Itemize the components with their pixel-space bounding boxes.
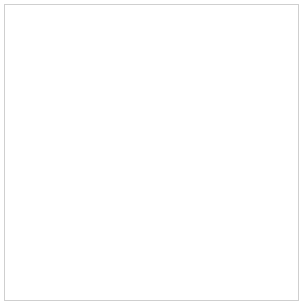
- chart-figure: 020406080100120140160180 01.02.03.04.05.…: [0, 0, 305, 307]
- figure-border: [4, 4, 299, 301]
